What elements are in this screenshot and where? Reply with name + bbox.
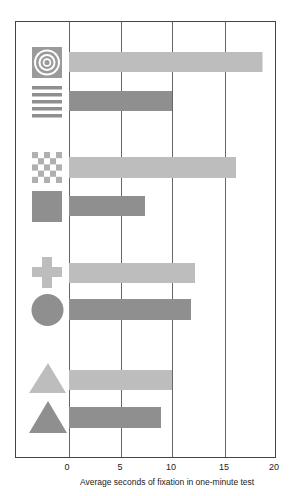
bar-solid-square xyxy=(69,196,145,216)
bar-dark-triangle xyxy=(69,407,161,428)
bar-circle xyxy=(69,299,191,320)
cross-icon xyxy=(32,257,62,288)
light-triangle-icon xyxy=(29,363,66,393)
bullseye-icon xyxy=(32,47,62,78)
x-tick-10: 10 xyxy=(166,462,176,472)
x-tick-15: 15 xyxy=(219,462,229,472)
bar-cross xyxy=(69,263,195,283)
x-axis-label: Average seconds of fixation in one-minut… xyxy=(80,477,254,487)
horizontal-stripes-icon xyxy=(32,86,62,118)
checkerboard-icon xyxy=(32,152,62,183)
dark-triangle-icon xyxy=(29,401,67,433)
solid-square-icon xyxy=(32,191,62,222)
bar-checkerboard xyxy=(69,157,236,178)
gridlines xyxy=(70,21,226,458)
x-tick-20: 20 xyxy=(269,462,279,472)
x-tick-5: 5 xyxy=(117,462,122,472)
bars xyxy=(69,52,263,428)
x-tick-0: 0 xyxy=(64,462,69,472)
bar-chart xyxy=(0,0,291,496)
bar-stripes xyxy=(69,91,172,111)
circle-icon xyxy=(32,294,64,326)
bar-bullseye xyxy=(69,52,263,72)
bar-light-triangle xyxy=(69,370,172,390)
